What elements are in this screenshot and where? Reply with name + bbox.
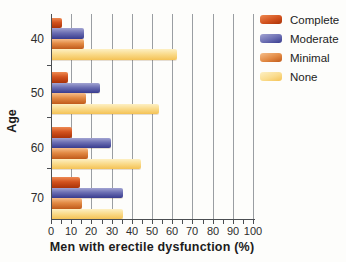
x-axis-tick: [81, 220, 82, 224]
y-axis-line: [51, 14, 52, 219]
plot-area: 0102030405060708090100: [51, 14, 253, 219]
legend-label-complete: Complete: [290, 14, 339, 26]
bar-complete-age-70: [52, 177, 80, 188]
bar-none-age-70: [52, 209, 123, 220]
bar-moderate-age-50: [52, 83, 100, 94]
legend-item-complete: Complete: [260, 10, 339, 29]
y-category-label-70: 70: [16, 191, 44, 205]
legend-label-moderate: Moderate: [290, 33, 339, 45]
x-axis-tick: [152, 220, 153, 224]
x-axis-tick: [223, 220, 224, 224]
bar-minimal-age-70: [52, 198, 82, 209]
x-axis-tick: [51, 220, 52, 224]
bar-complete-age-40: [52, 18, 62, 29]
bar-moderate-age-60: [52, 138, 111, 149]
gridline-90: [233, 14, 234, 219]
moderate-swatch-icon: [260, 34, 282, 43]
x-axis-tick: [233, 220, 234, 224]
x-axis-tick: [192, 220, 193, 224]
bar-minimal-age-60: [52, 148, 88, 159]
y-category-label-40: 40: [16, 32, 44, 46]
x-axis-tick: [243, 220, 244, 224]
y-category-label-60: 60: [16, 141, 44, 155]
y-axis-title: Age: [5, 104, 21, 138]
bar-minimal-age-50: [52, 93, 86, 104]
legend-item-minimal: Minimal: [260, 48, 339, 67]
x-axis-tick: [203, 220, 204, 224]
x-axis-tick: [162, 220, 163, 224]
x-axis-tick: [142, 220, 143, 224]
bar-none-age-60: [52, 159, 141, 170]
ed-prevalence-bar-chart: 0102030405060708090100 Age Men with erec…: [0, 0, 346, 262]
bar-complete-age-60: [52, 127, 72, 138]
gridline-100: [253, 14, 254, 219]
y-axis-tick: [47, 65, 51, 66]
x-axis-tick: [253, 220, 254, 224]
y-axis-tick: [47, 168, 51, 169]
bar-complete-age-50: [52, 72, 68, 83]
legend-label-minimal: Minimal: [290, 52, 330, 64]
gridline-40: [132, 14, 133, 219]
x-axis-tick: [172, 220, 173, 224]
x-axis-tick: [213, 220, 214, 224]
none-swatch-icon: [260, 72, 282, 81]
bar-minimal-age-40: [52, 39, 84, 50]
gridline-80: [213, 14, 214, 219]
x-axis-tick: [132, 220, 133, 224]
y-category-label-50: 50: [16, 86, 44, 100]
x-axis-tick: [61, 220, 62, 224]
bar-none-age-50: [52, 104, 159, 115]
x-axis-tick: [91, 220, 92, 224]
minimal-swatch-icon: [260, 53, 282, 62]
gridline-70: [192, 14, 193, 219]
gridline-50: [152, 14, 153, 219]
bar-none-age-40: [52, 49, 177, 60]
x-axis-tick: [112, 220, 113, 224]
legend-label-none: None: [290, 71, 318, 83]
x-axis-tick: [122, 220, 123, 224]
x-axis-tick: [102, 220, 103, 224]
y-axis-tick: [47, 117, 51, 118]
legend: CompleteModerateMinimalNone: [260, 10, 339, 86]
x-tick-label-100: 100: [239, 225, 267, 237]
bar-moderate-age-70: [52, 188, 123, 199]
x-axis-tick: [71, 220, 72, 224]
legend-item-none: None: [260, 67, 339, 86]
legend-item-moderate: Moderate: [260, 29, 339, 48]
bar-moderate-age-40: [52, 28, 84, 39]
gridline-60: [172, 14, 173, 219]
complete-swatch-icon: [260, 15, 282, 24]
x-axis-title: Men with erectile dysfunction (%): [36, 240, 268, 254]
x-axis-tick: [182, 220, 183, 224]
